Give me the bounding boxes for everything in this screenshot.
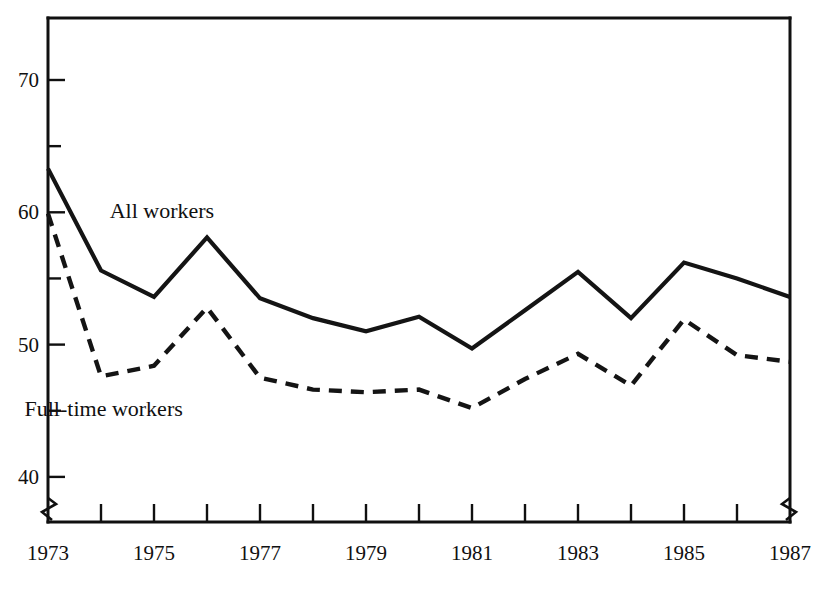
line-chart: 40506070 1973197519771979198119831985198… [0,0,827,594]
series-annotations: All workersFull-time workers [25,198,215,421]
series-line-full-time-workers [48,214,790,408]
x-tick-label: 1987 [769,541,811,565]
y-tick-label: 70 [18,68,39,92]
y-axis-tick-labels: 40506070 [18,68,39,489]
x-axis-ticks [101,504,737,522]
x-tick-label: 1979 [345,541,387,565]
chart-page: 40506070 1973197519771979198119831985198… [0,0,827,594]
x-tick-label: 1983 [557,541,599,565]
series-line-all-workers [48,169,790,349]
x-tick-label: 1975 [133,541,175,565]
x-tick-label: 1981 [451,541,493,565]
series-label: Full-time workers [25,396,183,421]
x-axis-tick-labels: 19731975197719791981198319851987 [27,541,811,565]
x-tick-label: 1985 [663,541,705,565]
y-tick-label: 60 [18,200,39,224]
series-label: All workers [110,198,214,223]
y-tick-label: 50 [18,333,39,357]
x-tick-label: 1977 [239,541,281,565]
x-tick-label: 1973 [27,541,69,565]
y-tick-label: 40 [18,465,39,489]
